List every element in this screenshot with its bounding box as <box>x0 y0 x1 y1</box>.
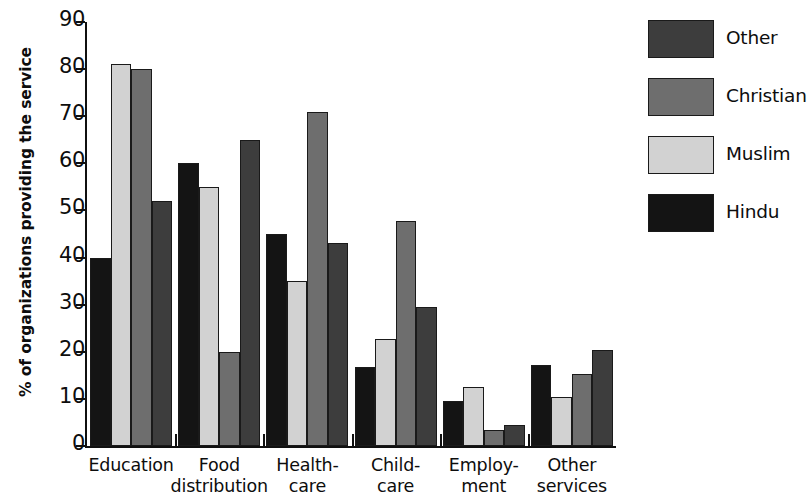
legend-label: Muslim <box>726 143 790 164</box>
legend-label: Hindu <box>726 201 779 222</box>
bar-other-1[interactable] <box>152 201 173 446</box>
y-tick-label: 40 <box>29 243 85 267</box>
group-separator-tick <box>175 434 177 446</box>
plot-area <box>87 22 616 446</box>
bar-other-3[interactable] <box>328 243 349 446</box>
y-tick-label: 30 <box>29 290 85 314</box>
bar-other-5[interactable] <box>504 425 525 446</box>
legend-item-christian[interactable]: Christian <box>648 78 798 136</box>
legend-item-other[interactable]: Other <box>648 20 798 78</box>
legend-swatch-hindu <box>648 194 714 232</box>
bar-christian-5[interactable] <box>484 430 505 446</box>
y-tick-label: 0 <box>29 431 85 455</box>
y-tick-label: 70 <box>29 101 85 125</box>
y-tick-label: 80 <box>29 54 85 78</box>
bar-muslim-3[interactable] <box>287 281 308 446</box>
legend-swatch-christian <box>648 78 714 116</box>
bar-muslim-4[interactable] <box>375 339 396 446</box>
legend-swatch-muslim <box>648 136 714 174</box>
bar-hindu-5[interactable] <box>443 401 464 446</box>
bar-group <box>440 22 528 446</box>
x-axis-label-line1: Other <box>548 455 597 475</box>
bar-hindu-1[interactable] <box>90 258 111 446</box>
legend-item-muslim[interactable]: Muslim <box>648 136 798 194</box>
group-separator-tick <box>440 434 442 446</box>
group-separator-tick <box>263 434 265 446</box>
bar-group <box>175 22 263 446</box>
chart-legend: OtherChristianMuslimHindu <box>648 20 798 252</box>
bar-group <box>87 22 175 446</box>
y-tick-label: 90 <box>29 7 85 31</box>
bar-hindu-6[interactable] <box>531 365 552 447</box>
bar-christian-2[interactable] <box>219 352 240 446</box>
x-axis-label-line2: services <box>510 476 634 497</box>
x-axis-label-line1: Child- <box>371 455 420 475</box>
legend-item-hindu[interactable]: Hindu <box>648 194 798 252</box>
bar-other-6[interactable] <box>592 350 613 446</box>
x-axis-label-line1: Health- <box>276 455 338 475</box>
bar-muslim-6[interactable] <box>551 397 572 446</box>
bar-muslim-1[interactable] <box>111 64 132 446</box>
y-tick-label: 50 <box>29 195 85 219</box>
legend-label: Other <box>726 27 778 48</box>
x-axis-line <box>85 446 616 448</box>
bar-muslim-5[interactable] <box>463 387 484 446</box>
bar-christian-6[interactable] <box>572 374 593 446</box>
bar-group <box>352 22 440 446</box>
bar-christian-3[interactable] <box>307 112 328 446</box>
x-axis-label: Otherservices <box>510 455 634 497</box>
bar-hindu-3[interactable] <box>266 234 287 446</box>
bar-christian-1[interactable] <box>131 69 152 446</box>
group-separator-tick <box>352 434 354 446</box>
bar-group <box>528 22 616 446</box>
bar-group <box>263 22 351 446</box>
y-tick-label: 20 <box>29 337 85 361</box>
bar-hindu-4[interactable] <box>355 367 376 446</box>
legend-label: Christian <box>726 85 807 106</box>
group-separator-tick <box>528 434 530 446</box>
legend-swatch-other <box>648 20 714 58</box>
x-axis-label-line1: Food <box>199 455 240 475</box>
x-axis-label-line1: Employ- <box>449 455 519 475</box>
y-tick-label: 60 <box>29 148 85 172</box>
bar-muslim-2[interactable] <box>199 187 220 446</box>
bar-other-2[interactable] <box>240 140 261 446</box>
bar-other-4[interactable] <box>416 307 437 446</box>
y-tick-label: 10 <box>29 384 85 408</box>
bar-hindu-2[interactable] <box>178 163 199 446</box>
bar-christian-4[interactable] <box>396 221 417 446</box>
chart-root: % of organizations providing the service… <box>0 0 807 504</box>
